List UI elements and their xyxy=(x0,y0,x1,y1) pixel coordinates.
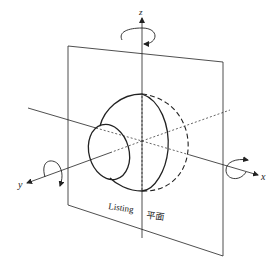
globe-front-outline xyxy=(100,94,168,191)
z-rotation-arrow xyxy=(121,28,155,44)
y-axis xyxy=(27,152,112,183)
y-axis-back xyxy=(142,110,230,141)
cornea-ellipse xyxy=(82,120,135,184)
x-axis-back xyxy=(28,108,96,128)
globe-back-outline xyxy=(142,94,188,191)
x-axis-label: x xyxy=(260,171,266,182)
plane-label-cjk: 平面 xyxy=(146,210,165,222)
x-axis-inner-dashed xyxy=(142,141,190,155)
y-axis-label: y xyxy=(17,179,23,190)
z-axis-label: z xyxy=(138,7,143,17)
plane-label-latin: Listing xyxy=(108,201,135,215)
listing-plane xyxy=(68,46,223,256)
listing-plane-diagram: z y x Listing 平面 xyxy=(0,0,273,265)
x-axis xyxy=(190,155,258,175)
